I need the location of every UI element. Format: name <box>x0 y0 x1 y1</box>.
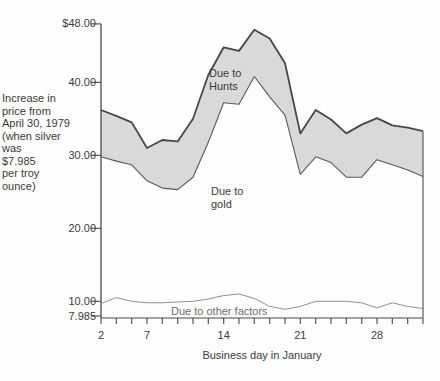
x-tick-label: 7 <box>134 329 160 341</box>
y-tick-label: $48.00 <box>44 17 96 29</box>
y-tick-label: 10.00 <box>44 295 96 307</box>
annotation-due-to-other-factors: Due to other factors <box>171 305 268 318</box>
x-tick-label: 21 <box>287 329 313 341</box>
annotation-due-to-gold: Due to gold <box>211 185 243 210</box>
y-tick-label: 20.00 <box>44 222 96 234</box>
silver-price-decomposition-chart: Increase in price from April 30, 1979 (w… <box>0 0 440 381</box>
y-tick-label: 30.00 <box>44 149 96 161</box>
x-tick-label: 28 <box>364 329 390 341</box>
y-axis-description: Increase in price from April 30, 1979 (w… <box>2 92 98 192</box>
x-tick-label: 2 <box>88 329 114 341</box>
y-tick-label: 40.00 <box>44 76 96 88</box>
x-tick-label: 14 <box>211 329 237 341</box>
y-tick-label: 7.985 <box>44 310 96 322</box>
x-axis-title: Business day in January <box>160 349 364 362</box>
hunts-band <box>101 30 423 190</box>
annotation-due-to-hunts: Due to Hunts <box>209 67 241 92</box>
